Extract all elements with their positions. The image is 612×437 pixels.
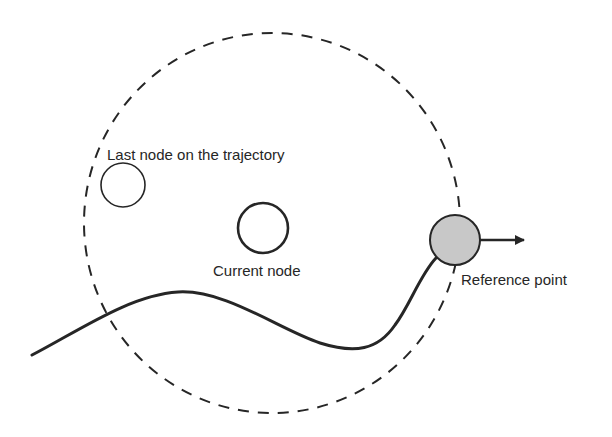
current-node-circle — [238, 203, 288, 253]
last-node-circle — [101, 163, 145, 207]
last-node-label: Last node on the trajectory — [107, 146, 285, 163]
reference-point-circle — [430, 215, 480, 265]
trajectory-diagram: Last node on the trajectory Current node… — [0, 0, 612, 437]
reference-point-label: Reference point — [461, 271, 568, 288]
current-node-label: Current node — [213, 262, 301, 279]
